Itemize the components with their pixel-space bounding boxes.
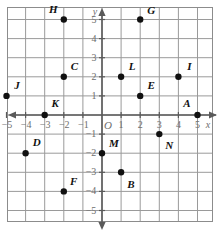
origin-label: O	[104, 120, 112, 131]
y-tick-label-neg3: −3	[86, 167, 97, 177]
data-point-d[interactable]	[22, 150, 28, 156]
data-point-m[interactable]	[99, 150, 105, 156]
data-point-a[interactable]	[194, 112, 200, 118]
y-axis-label: y	[93, 7, 97, 17]
y-axis-arrow-up	[98, 8, 105, 16]
coordinate-plane-svg	[0, 0, 221, 235]
y-tick-label-neg5: −5	[86, 206, 97, 216]
x-tick-label-neg2: −2	[59, 120, 70, 130]
point-label-k: K	[52, 98, 59, 109]
x-axis-arrow-left	[8, 111, 16, 118]
x-tick-label-pos2: 2	[138, 120, 143, 130]
y-tick-label-pos3: 3	[92, 53, 97, 63]
point-label-e: E	[148, 79, 155, 90]
y-tick-label-pos4: 4	[92, 34, 97, 44]
y-tick-label-neg4: −4	[86, 186, 97, 196]
point-label-d: D	[33, 137, 41, 148]
x-tick-label-neg4: −4	[21, 120, 32, 130]
point-label-n: N	[165, 140, 173, 151]
coordinate-plane-figure: ABCDEFGHIJKLMN−5−4−3−2−112345−5−4−3−2−11…	[0, 0, 221, 235]
point-label-j: J	[14, 79, 20, 90]
data-point-f[interactable]	[61, 188, 67, 194]
data-point-c[interactable]	[61, 74, 67, 80]
point-label-b: B	[127, 179, 134, 190]
data-point-h[interactable]	[61, 16, 67, 22]
data-point-g[interactable]	[137, 16, 143, 22]
point-label-m: M	[109, 138, 119, 149]
data-point-b[interactable]	[118, 169, 124, 175]
y-tick-label-pos2: 2	[92, 72, 97, 82]
point-label-l: L	[129, 61, 136, 72]
point-label-i: I	[187, 60, 191, 71]
data-point-l[interactable]	[118, 74, 124, 80]
point-label-f: F	[70, 175, 77, 186]
x-tick-label-pos3: 3	[157, 120, 162, 130]
x-tick-label-neg3: −3	[40, 120, 51, 130]
data-point-k[interactable]	[42, 112, 48, 118]
x-tick-label-pos4: 4	[176, 120, 181, 130]
point-label-c: C	[71, 61, 78, 72]
y-tick-label-neg1: −1	[86, 129, 97, 139]
data-point-e[interactable]	[137, 93, 143, 99]
x-tick-label-pos1: 1	[119, 120, 124, 130]
point-label-h: H	[49, 3, 58, 14]
x-tick-label-pos5: 5	[195, 120, 200, 130]
x-axis-label: x	[206, 120, 210, 130]
x-tick-label-neg5: −5	[2, 120, 13, 130]
y-tick-label-neg2: −2	[86, 148, 97, 158]
point-label-g: G	[147, 4, 155, 15]
data-point-j[interactable]	[3, 93, 9, 99]
data-point-n[interactable]	[156, 131, 162, 137]
y-axis-arrow-down	[98, 222, 105, 230]
data-point-i[interactable]	[175, 74, 181, 80]
y-tick-label-pos1: 1	[92, 91, 97, 101]
point-label-a: A	[183, 98, 190, 109]
